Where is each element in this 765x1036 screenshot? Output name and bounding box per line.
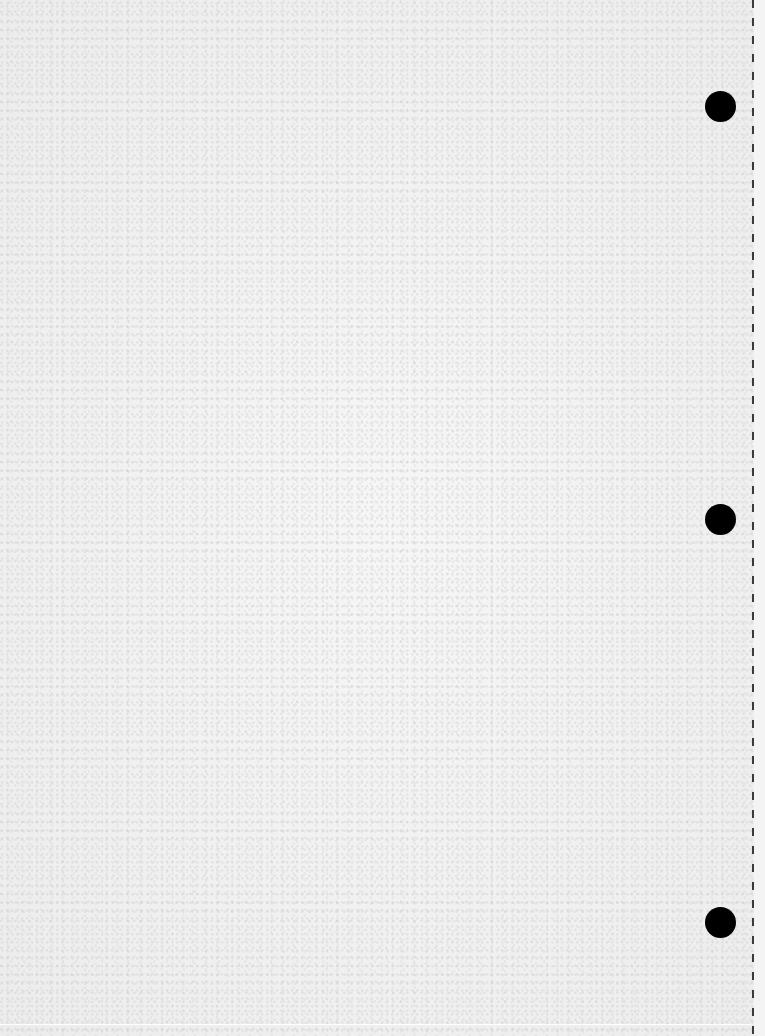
perforation-line: [752, 0, 754, 1036]
punch-hole-top: [705, 91, 736, 122]
blank-paper-page: [0, 0, 765, 1036]
punch-hole-middle: [705, 504, 736, 535]
page-edge-line: [0, 1024, 751, 1025]
punch-hole-bottom: [705, 907, 736, 938]
tear-off-strip: [754, 0, 765, 1036]
